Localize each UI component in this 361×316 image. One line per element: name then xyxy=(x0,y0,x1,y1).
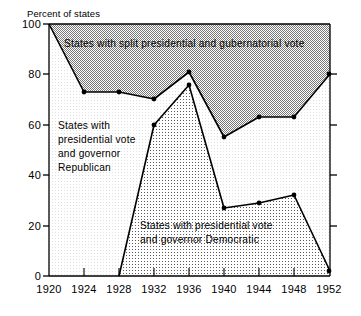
x-tick-label-1928: 1928 xyxy=(106,283,131,295)
annotation-republican-line-1: States with xyxy=(58,120,110,131)
x-tick-label-1940: 1940 xyxy=(211,283,236,295)
y-tick-labels: 100 80 60 40 20 0 xyxy=(22,18,41,282)
x-tick-label-1924: 1924 xyxy=(71,283,96,295)
point-upper-1940 xyxy=(222,135,227,140)
point-upper-1936 xyxy=(187,70,192,75)
point-upper-1944 xyxy=(257,115,262,120)
chart-container: Percent of states 100 80 60 40 20 0 1920… xyxy=(0,0,361,316)
x-tick-label-1936: 1936 xyxy=(176,283,201,295)
x-tick-label-1952: 1952 xyxy=(316,283,341,295)
annotation-democratic-line-1: States with presidential vote xyxy=(140,220,273,231)
x-tick-label-1948: 1948 xyxy=(281,283,306,295)
x-tick-labels: 1920 1924 1928 1932 1936 1940 1944 1948 … xyxy=(36,283,341,295)
y-tick-label-60: 60 xyxy=(28,119,41,131)
point-lower-1940 xyxy=(222,206,227,211)
y-tick-marks xyxy=(43,24,49,276)
x-tick-label-1932: 1932 xyxy=(141,283,166,295)
point-upper-1924 xyxy=(82,90,87,95)
point-upper-1948 xyxy=(292,115,297,120)
annotation-split-vote: States with split presidential and guber… xyxy=(64,38,305,49)
y-tick-label-40: 40 xyxy=(28,169,41,181)
annotation-split-vote-text: States with split presidential and guber… xyxy=(64,38,305,49)
y-tick-label-20: 20 xyxy=(28,220,41,232)
y-tick-label-80: 80 xyxy=(28,68,41,80)
x-tick-label-1944: 1944 xyxy=(246,283,271,295)
annotation-republican-line-3: and governor xyxy=(58,148,121,159)
point-lower-1944 xyxy=(257,201,262,206)
annotation-republican-line-2: presidential vote xyxy=(58,134,136,145)
point-lower-1952 xyxy=(327,269,332,274)
point-upper-1932 xyxy=(152,97,157,102)
annotation-republican-line-4: Republican xyxy=(58,162,111,173)
point-lower-1936 xyxy=(187,83,192,88)
x-tick-label-1920: 1920 xyxy=(36,283,61,295)
y-tick-marks-right xyxy=(330,74,337,226)
chart-svg: Percent of states 100 80 60 40 20 0 1920… xyxy=(0,0,361,316)
y-tick-label-0: 0 xyxy=(35,270,41,282)
point-upper-1928 xyxy=(117,90,122,95)
annotation-democratic-line-2: and governor Democratic xyxy=(140,234,259,245)
point-lower-1932 xyxy=(152,123,157,128)
point-lower-1948 xyxy=(292,193,297,198)
y-tick-label-100: 100 xyxy=(22,18,41,30)
